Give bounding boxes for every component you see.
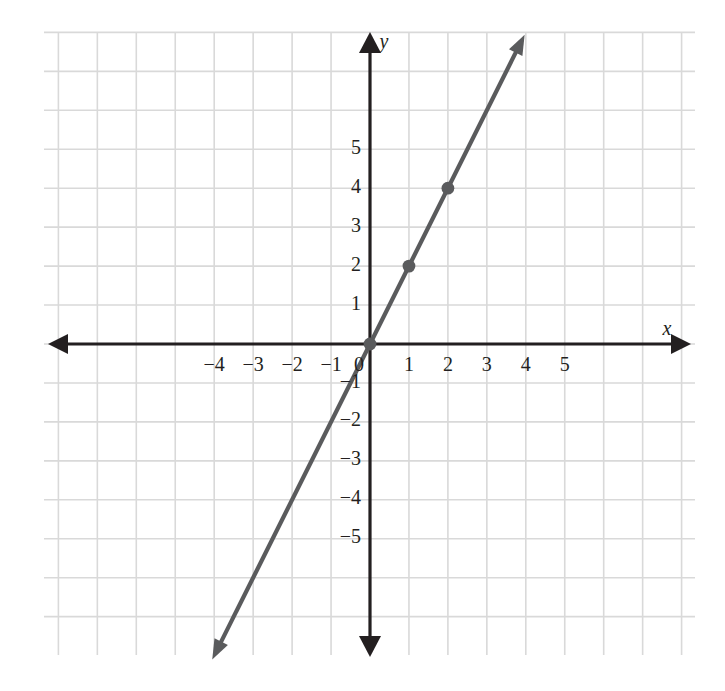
y-tick-label: −2 (340, 408, 361, 430)
y-tick-label: −3 (340, 447, 361, 469)
x-axis-label: x (662, 317, 672, 339)
data-point-marker (442, 182, 455, 195)
graph-canvas: −4−3−2−101234554321−1−2−3−4−5 y x (0, 0, 725, 691)
y-tick-label: −5 (340, 525, 361, 547)
y-tick-label: 5 (351, 136, 361, 158)
x-tick-label: 3 (482, 353, 492, 375)
y-tick-label: 1 (351, 292, 361, 314)
y-tick-label: 2 (351, 253, 361, 275)
coordinate-plane-graph: −4−3−2−101234554321−1−2−3−4−5 y x (0, 0, 725, 691)
x-tick-label: −1 (320, 353, 341, 375)
data-point-marker (364, 338, 377, 351)
y-tick-label: 4 (351, 175, 361, 197)
x-tick-label: 2 (443, 353, 453, 375)
y-tick-label: −1 (340, 370, 361, 392)
x-tick-label: −4 (204, 353, 225, 375)
y-tick-label: −4 (340, 486, 361, 508)
y-tick-label: 3 (351, 214, 361, 236)
x-tick-label: −2 (281, 353, 302, 375)
y-axis-label: y (378, 30, 389, 53)
x-tick-label: −3 (243, 353, 264, 375)
x-tick-label: 4 (521, 353, 531, 375)
x-tick-label: 1 (404, 353, 414, 375)
x-tick-label: 5 (560, 353, 570, 375)
data-point-marker (403, 260, 416, 273)
